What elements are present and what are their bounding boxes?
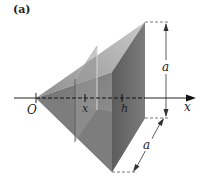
label-height-a: a (162, 60, 169, 74)
pyramid-diagram: (a) O x h x a a (0, 0, 210, 187)
pyramid-solid (36, 22, 145, 172)
arrow-up-icon (164, 23, 169, 31)
label-axis-x: x (184, 100, 191, 114)
label-x-position: x (82, 102, 89, 115)
arrow-upright-icon (158, 118, 165, 126)
arrow-downleft-icon (133, 164, 140, 172)
figure-tag: (a) (13, 3, 31, 16)
label-depth-a: a (143, 138, 150, 152)
arrow-down-icon (164, 109, 169, 117)
label-h: h (121, 102, 128, 115)
label-origin: O (27, 103, 37, 117)
